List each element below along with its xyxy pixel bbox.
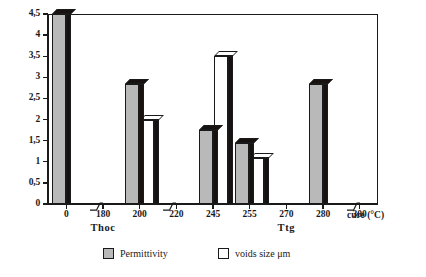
x-axis-tick-label: 255 <box>243 210 257 220</box>
bars-layer <box>48 14 378 204</box>
x-axis-tick-label: 245 <box>206 210 220 220</box>
legend-swatch-icon <box>103 248 114 259</box>
legend-item: voids size μm <box>218 248 290 259</box>
bar-front-face <box>235 143 249 204</box>
bar-side-face <box>213 130 218 204</box>
bar-side-face <box>228 56 233 204</box>
y-axis-tick-label: 2,5 <box>29 94 40 104</box>
legend-swatch-icon <box>218 248 229 259</box>
bar <box>235 143 249 204</box>
x-axis-tick-label: 180 <box>96 210 110 220</box>
y-axis-tick-label: 3 <box>35 73 40 83</box>
axis-break-mark <box>90 197 103 206</box>
legend-item: Permittivity <box>103 248 168 259</box>
y-axis-ticks: 00,511,522,533,544,5 <box>0 0 48 218</box>
bar-side-face <box>154 120 159 204</box>
x-axis-tick-label: 0 <box>64 210 69 220</box>
y-axis-tick-label: 4 <box>35 30 40 40</box>
y-axis-tick-label: 1 <box>35 157 40 167</box>
group-annotation-label: Ttg <box>278 222 296 233</box>
y-axis-tick-label: 3,5 <box>29 51 40 61</box>
legend-label: Permittivity <box>120 249 168 259</box>
y-axis-tick-label: 4,5 <box>29 9 40 19</box>
bar-front-face <box>52 14 66 204</box>
y-axis-tick-label: 0,5 <box>29 178 40 188</box>
bar-side-face <box>323 84 328 204</box>
bar-front-face <box>125 84 139 204</box>
bar-side-face <box>66 14 71 204</box>
bar-front-face <box>199 130 213 204</box>
x-axis-tick-label: 270 <box>279 210 293 220</box>
bar <box>309 84 323 204</box>
bar <box>125 84 139 204</box>
bar-side-face <box>249 143 254 204</box>
axis-break-mark <box>163 197 176 206</box>
x-axis-tick-label: 280 <box>316 210 330 220</box>
chart-legend: Permittivityvoids size μm <box>0 248 426 268</box>
group-annotation-label: Thoc <box>90 222 115 233</box>
x-axis-tick-label: 220 <box>169 210 183 220</box>
bar-side-face <box>139 84 144 204</box>
bar-chart: 00,511,522,533,544,5 0180200220245255270… <box>0 0 426 277</box>
bar <box>52 14 66 204</box>
bar <box>199 130 213 204</box>
x-axis-unit-label: cure (°C) <box>347 210 384 220</box>
bar-side-face <box>264 158 269 204</box>
x-axis-tick-label: 200 <box>133 210 147 220</box>
legend-label: voids size μm <box>235 249 290 259</box>
axis-break-mark <box>347 197 360 206</box>
y-axis-tick-label: 2 <box>35 115 40 125</box>
y-axis-tick-label: 0 <box>35 199 40 209</box>
bar-front-face <box>309 84 323 204</box>
y-axis-tick-label: 1,5 <box>29 136 40 146</box>
